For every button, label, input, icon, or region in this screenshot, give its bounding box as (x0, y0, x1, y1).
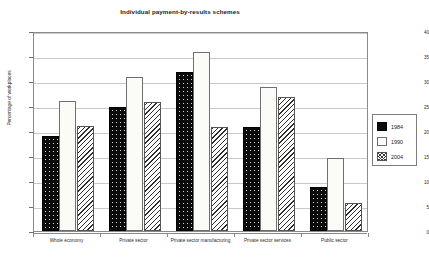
x-tick-mark (368, 233, 369, 237)
legend-label-1990: 1990 (391, 139, 403, 145)
legend-item[interactable]: 1990 (377, 134, 416, 149)
x-axis-category-label: Private sector manufacturing (167, 238, 234, 244)
bar (176, 72, 193, 232)
legend-label-2004: 2004 (391, 154, 403, 160)
x-tick-mark (167, 233, 168, 237)
y-tick-label: 0 (401, 230, 429, 235)
x-axis-category-label: Private sector (100, 238, 167, 244)
legend-swatch-2004 (377, 152, 387, 161)
legend-item[interactable]: 1984 (377, 119, 416, 134)
bar (345, 203, 362, 232)
bar (144, 102, 161, 231)
bar (59, 101, 76, 231)
x-tick-mark (100, 233, 101, 237)
y-axis-title: Percentage of workplaces (7, 61, 13, 135)
legend-label-1984: 1984 (391, 124, 403, 130)
bar (77, 126, 94, 231)
legend-swatch-1984 (377, 122, 387, 131)
x-axis-category-label: Private sector services (234, 238, 301, 244)
x-tick-mark (33, 233, 34, 237)
bar (260, 87, 277, 231)
gridline (34, 233, 367, 234)
bar (42, 136, 59, 231)
chart-title: Individual payment-by-results schemes (0, 8, 360, 16)
bar-chart: Individual payment-by-results schemes Pe… (0, 0, 429, 265)
legend-item[interactable]: 2004 (377, 149, 416, 164)
bar (193, 52, 210, 231)
bar (109, 107, 126, 232)
y-tick-label: 10 (401, 180, 429, 185)
bar (243, 127, 260, 232)
plot-area (33, 32, 368, 232)
bar (126, 77, 143, 232)
bar (211, 127, 228, 232)
y-tick-label: 5 (401, 205, 429, 210)
x-axis-category-label: Public sector (301, 238, 368, 244)
y-tick-label: 40 (401, 30, 429, 35)
x-tick-mark (301, 233, 302, 237)
y-tick-label: 35 (401, 55, 429, 60)
chart-legend: 1984 1990 2004 (372, 114, 417, 166)
bar (327, 158, 344, 232)
x-axis-category-label: Whole economy (33, 238, 100, 244)
gridline (34, 33, 367, 34)
bar (310, 187, 327, 231)
y-tick-label: 25 (401, 105, 429, 110)
bar (278, 97, 295, 231)
legend-swatch-1990 (377, 137, 387, 146)
y-tick-label: 30 (401, 80, 429, 85)
x-tick-mark (234, 233, 235, 237)
